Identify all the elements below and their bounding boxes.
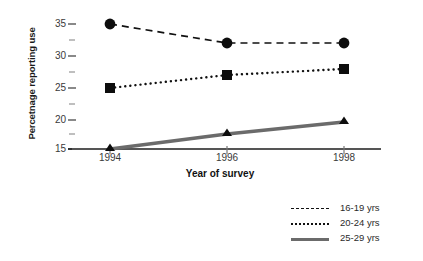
legend-item-16-19-yrs: 16-19 yrs <box>288 200 418 215</box>
legend-label-16-19-yrs: 16-19 yrs <box>332 202 380 213</box>
x-tick-label-1994: 1994 <box>87 152 133 163</box>
legend-item-20-24-yrs: 20-24 yrs <box>288 215 418 230</box>
legend-item-25-29-yrs: 25-29 yrs <box>288 230 418 245</box>
legend-swatch-dotted-line <box>288 216 332 230</box>
legend-label-25-29-yrs: 25-29 yrs <box>332 232 380 243</box>
legend-swatch-dashed-line <box>288 201 332 215</box>
chart-figure: Percetnage reporting use 35 30 25 20 15 <box>0 0 423 261</box>
legend-label-20-24-yrs: 20-24 yrs <box>332 217 380 228</box>
x-tick-label-1996: 1996 <box>204 152 250 163</box>
chart-legend: 16-19 yrs 20-24 yrs 25-29 yrs <box>288 200 418 245</box>
x-tick-label-1998: 1998 <box>321 152 367 163</box>
legend-swatch-solid-line <box>288 231 332 245</box>
x-axis-title: Year of survey <box>70 168 370 179</box>
